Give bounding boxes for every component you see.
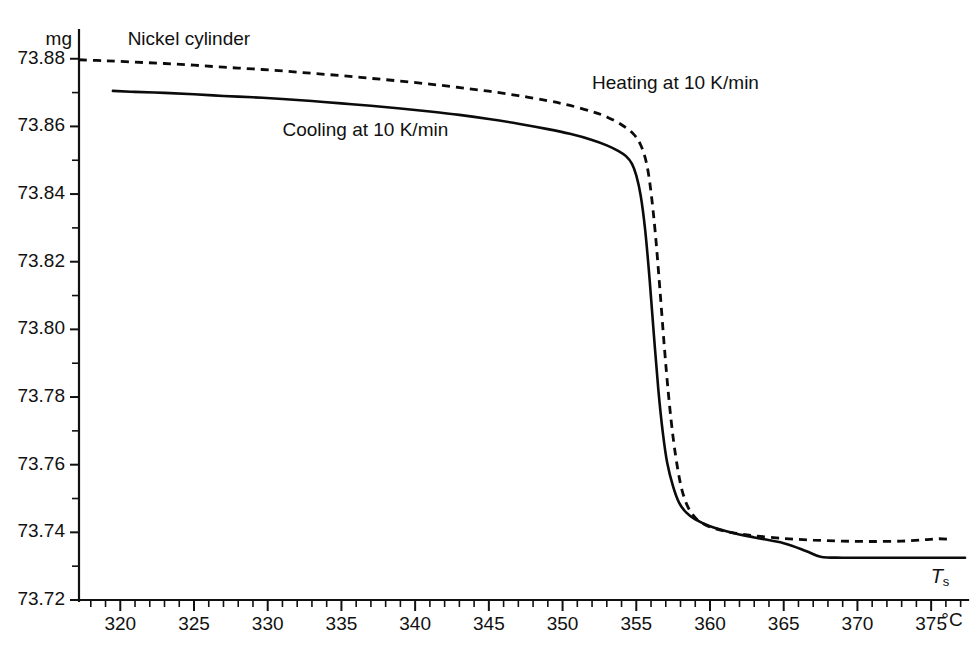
y-tick-label: 73.74 — [17, 520, 65, 541]
cooling-curve — [113, 91, 965, 558]
y-axis-tick-labels: 73.7273.7473.7673.7873.8073.8273.8473.86… — [17, 47, 65, 609]
x-tick-label: 345 — [473, 613, 505, 634]
x-tick-label: 340 — [399, 613, 431, 634]
sample-label: Nickel cylinder — [128, 28, 251, 49]
x-axis-variable-label: Ts — [931, 565, 950, 589]
x-tick-label: 325 — [178, 613, 210, 634]
y-tick-label: 73.78 — [17, 385, 65, 406]
x-tick-label: 360 — [694, 613, 726, 634]
x-tick-label: 365 — [768, 613, 800, 634]
x-axis-ticks — [91, 600, 961, 611]
cooling-curve-label: Cooling at 10 K/min — [282, 119, 448, 140]
y-tick-label: 73.72 — [17, 588, 65, 609]
x-tick-label: 320 — [104, 613, 136, 634]
x-axis-tick-labels: 320325330335340345350355360365370375 — [104, 613, 947, 634]
y-tick-label: 73.86 — [17, 114, 65, 135]
x-tick-label: 355 — [620, 613, 652, 634]
x-tick-label: 335 — [326, 613, 358, 634]
x-tick-label: 370 — [842, 613, 874, 634]
heating-curve — [79, 60, 950, 542]
axes-group — [79, 30, 968, 601]
tga-plot: 73.7273.7473.7673.7873.8073.8273.8473.86… — [0, 0, 974, 661]
y-tick-label: 73.82 — [17, 250, 65, 271]
y-tick-label: 73.88 — [17, 47, 65, 68]
x-tick-label: 330 — [252, 613, 284, 634]
chart-container: 73.7273.7473.7673.7873.8073.8273.8473.86… — [0, 0, 974, 661]
y-axis-unit-label: mg — [46, 28, 72, 49]
heating-curve-label: Heating at 10 K/min — [592, 72, 759, 93]
x-tick-label: 350 — [547, 613, 579, 634]
y-tick-label: 73.76 — [17, 453, 65, 474]
x-axis-variable-subscript: s — [943, 574, 950, 589]
y-tick-label: 73.84 — [17, 182, 65, 203]
y-tick-label: 73.80 — [17, 317, 65, 338]
data-series-group — [79, 60, 965, 558]
x-axis-unit-label: °C — [941, 609, 962, 630]
y-axis-ticks — [70, 59, 79, 600]
